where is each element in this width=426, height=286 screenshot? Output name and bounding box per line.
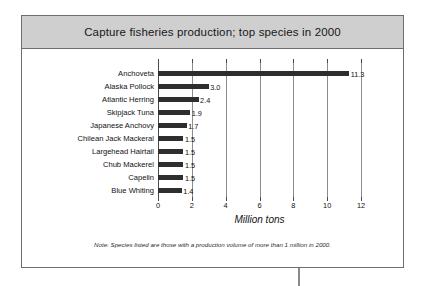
bar-track: 1.5 (158, 145, 403, 158)
bar-track: 1.5 (158, 171, 403, 184)
bar-row: Capelin1.5 (22, 171, 403, 184)
chart-title: Capture fisheries production; top specie… (84, 26, 341, 38)
bar (158, 97, 199, 102)
category-label: Alaska Pollock (22, 80, 158, 93)
bar-row: Chub Mackerel1.5 (22, 158, 403, 171)
bar-value-label: 3.0 (209, 83, 221, 92)
bar-value-label: 2.4 (199, 96, 211, 105)
bar-row: Japanese Anchovy1.7 (22, 119, 403, 132)
category-label: Blue Whiting (22, 184, 158, 197)
bar (158, 71, 349, 76)
bar (158, 162, 183, 167)
bar-track: 1.4 (158, 184, 403, 197)
x-tick-label: 0 (156, 201, 160, 210)
x-tick-label: 12 (357, 201, 365, 210)
bar-row: Blue Whiting1.4 (22, 184, 403, 197)
bar-track: 11.3 (158, 67, 403, 80)
category-label: Largehead Hairtail (22, 145, 158, 158)
bar-row: Atlantic Herring2.4 (22, 93, 403, 106)
bar-value-label: 1.5 (183, 135, 195, 144)
chart-footnote: Note: Species listed are those with a pr… (22, 241, 403, 248)
bar-row: Largehead Hairtail1.5 (22, 145, 403, 158)
x-axis-title: Million tons (158, 214, 361, 225)
top-tick-mark (158, 59, 159, 63)
frame-bottom-stub (298, 268, 300, 286)
x-tick-label: 10 (323, 201, 331, 210)
bar-track: 1.5 (158, 132, 403, 145)
top-tick-mark (192, 59, 193, 63)
bar-row: Anchoveta11.3 (22, 67, 403, 80)
x-tick-label: 6 (257, 201, 261, 210)
bar-value-label: 1.4 (182, 187, 194, 196)
x-tick-label: 8 (291, 201, 295, 210)
bar-track: 3.0 (158, 80, 403, 93)
category-label: Skipjack Tuna (22, 106, 158, 119)
bar (158, 84, 209, 89)
bar-value-label: 1.5 (183, 161, 195, 170)
category-label: Japanese Anchovy (22, 119, 158, 132)
bar-track: 1.5 (158, 158, 403, 171)
top-tick-mark (226, 59, 227, 63)
bar-row: Skipjack Tuna1.9 (22, 106, 403, 119)
bar-track: 1.7 (158, 119, 403, 132)
top-tick-mark (361, 59, 362, 63)
bar-value-label: 1.7 (187, 122, 199, 131)
bar (158, 123, 187, 128)
bar (158, 188, 182, 193)
bar-rows: Anchoveta11.3Alaska Pollock3.0Atlantic H… (22, 67, 403, 197)
category-label: Anchoveta (22, 67, 158, 80)
bar (158, 110, 190, 115)
bar (158, 149, 183, 154)
category-label: Atlantic Herring (22, 93, 158, 106)
plot-area: Anchoveta11.3Alaska Pollock3.0Atlantic H… (22, 49, 403, 269)
bar (158, 175, 183, 180)
x-tick-label: 4 (224, 201, 228, 210)
bar-row: Alaska Pollock3.0 (22, 80, 403, 93)
top-tick-mark (260, 59, 261, 63)
bar-value-label: 11.3 (349, 70, 364, 79)
top-tick-mark (293, 59, 294, 63)
category-label: Chub Mackerel (22, 158, 158, 171)
bar-track: 1.9 (158, 106, 403, 119)
category-label: Capelin (22, 171, 158, 184)
bar (158, 136, 183, 141)
category-label: Chilean Jack Mackeral (22, 132, 158, 145)
x-tick-label: 2 (190, 201, 194, 210)
bar-value-label: 1.9 (190, 109, 202, 118)
chart-header-band: Capture fisheries production; top specie… (22, 16, 403, 49)
x-axis: 024681012 (158, 197, 361, 211)
bar-value-label: 1.5 (183, 148, 195, 157)
bar-track: 2.4 (158, 93, 403, 106)
top-tick-mark (327, 59, 328, 63)
chart-frame: Capture fisheries production; top specie… (21, 15, 404, 268)
bar-row: Chilean Jack Mackeral1.5 (22, 132, 403, 145)
bar-value-label: 1.5 (183, 174, 195, 183)
